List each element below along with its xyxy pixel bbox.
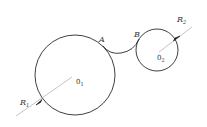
circle-o2 — [136, 29, 178, 71]
label-o1-sub: 1 — [80, 81, 83, 87]
label-r2: R2 — [176, 15, 186, 25]
label-o2-sub: 2 — [161, 57, 164, 63]
label-r2-sub: 2 — [182, 19, 186, 25]
radius-leader-r1 — [16, 77, 72, 116]
tangent-arc-diagram: A B R1 R2 01 02 — [0, 0, 207, 127]
circle-o1 — [35, 35, 115, 115]
label-r1: R1 — [19, 98, 29, 108]
label-r1-sub: 1 — [26, 102, 29, 108]
arrow-r2-icon — [174, 36, 181, 41]
label-o1: 01 — [76, 78, 84, 87]
label-b: B — [133, 30, 140, 39]
connecting-arc-ab — [103, 39, 139, 53]
label-a: A — [98, 35, 105, 44]
label-r1-main: R — [19, 98, 26, 107]
label-r2-main: R — [176, 15, 183, 24]
label-o2: 02 — [157, 54, 165, 63]
